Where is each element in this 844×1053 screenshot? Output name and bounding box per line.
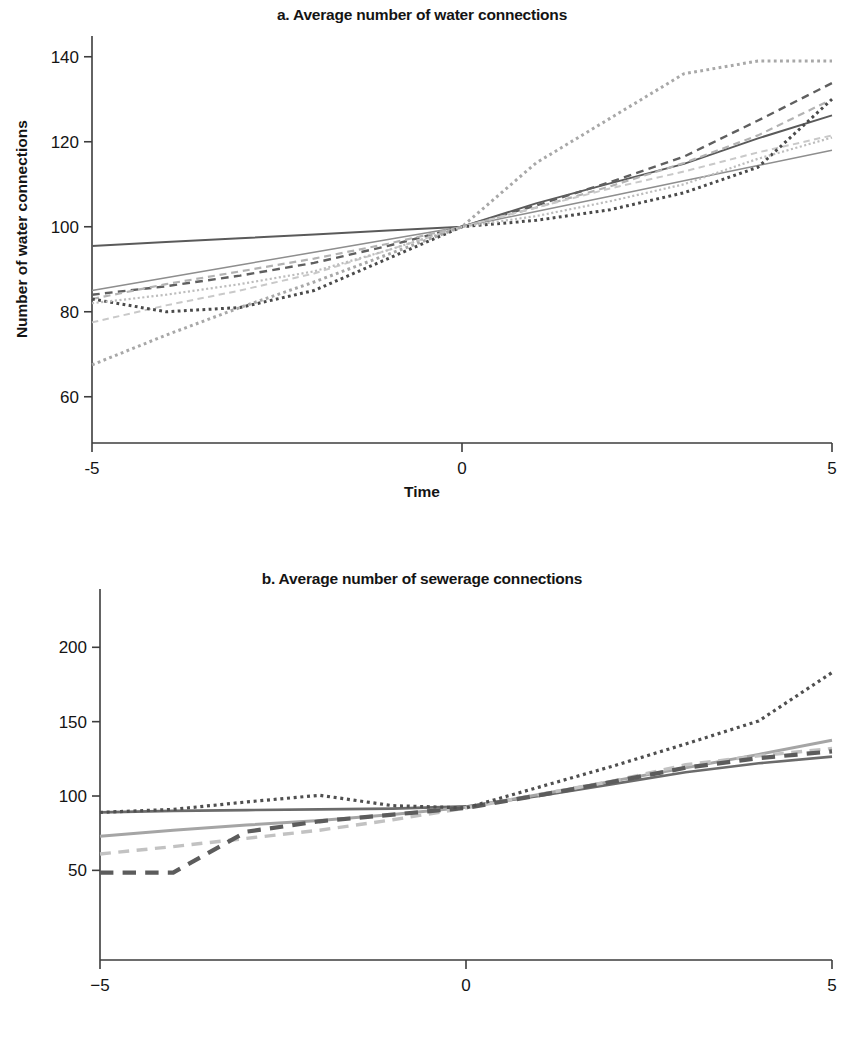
- x-tick-label: −5: [90, 976, 109, 995]
- series-line-series-a3: [92, 83, 832, 295]
- x-tick-label: -5: [84, 459, 99, 478]
- series-line-series-b4: [100, 751, 832, 872]
- chart-b-plot-area: 50100150200−505: [0, 530, 844, 1053]
- series-line-series-a4: [92, 99, 832, 299]
- figure-root: a. Average number of water connections N…: [0, 0, 844, 1053]
- y-tick-label: 50: [68, 861, 87, 880]
- chart-panel-sewerage: b. Average number of sewerage connection…: [0, 530, 844, 1053]
- x-tick-label: 5: [827, 976, 836, 995]
- chart-a-plot-area: 6080100120140-505: [0, 0, 844, 530]
- x-tick-label: 0: [461, 976, 470, 995]
- y-tick-label: 200: [59, 638, 87, 657]
- chart-a-x-axis-label: Time: [0, 483, 844, 501]
- series-line-series-a6: [92, 99, 832, 312]
- y-tick-label: 150: [59, 713, 87, 732]
- y-tick-label: 120: [51, 133, 79, 152]
- chart-panel-water: a. Average number of water connections N…: [0, 0, 844, 530]
- series-line-series-a8: [92, 61, 832, 365]
- y-tick-label: 140: [51, 48, 79, 67]
- y-tick-label: 80: [60, 303, 79, 322]
- series-line-series-b5: [100, 673, 832, 813]
- x-tick-label: 0: [457, 459, 466, 478]
- x-tick-label: 5: [827, 459, 836, 478]
- series-line-series-a5: [92, 135, 832, 322]
- y-tick-label: 60: [60, 388, 79, 407]
- y-tick-label: 100: [51, 218, 79, 237]
- series-line-series-b2: [100, 740, 832, 836]
- y-tick-label: 100: [59, 787, 87, 806]
